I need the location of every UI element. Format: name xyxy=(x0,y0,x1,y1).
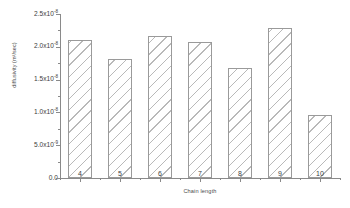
x-axis-tick xyxy=(200,178,201,182)
y-axis-line xyxy=(60,14,61,178)
y-axis-tick-label: 5.0x10-9 xyxy=(12,142,58,149)
y-axis-minor-tick xyxy=(58,96,60,97)
x-axis-minor-tick xyxy=(60,178,61,180)
bar xyxy=(188,42,212,178)
x-axis-tick-label: 5 xyxy=(105,170,135,177)
x-axis-minor-tick xyxy=(340,178,341,180)
y-axis-tick xyxy=(56,112,60,113)
x-axis-minor-tick xyxy=(180,178,181,180)
y-axis-tick-label: 0.0 xyxy=(12,175,58,182)
x-axis-tick-label: 10 xyxy=(305,170,335,177)
y-axis-tick-label: 2.5x10-8 xyxy=(12,11,58,18)
bar xyxy=(228,68,252,178)
x-axis-minor-tick xyxy=(220,178,221,180)
x-axis-minor-tick xyxy=(300,178,301,180)
bar xyxy=(308,115,332,178)
bar xyxy=(148,36,172,178)
y-axis-minor-tick xyxy=(58,30,60,31)
x-axis-tick-label: 7 xyxy=(185,170,215,177)
y-axis-minor-tick xyxy=(58,63,60,64)
y-axis-tick xyxy=(56,47,60,48)
x-axis-tick-label: 8 xyxy=(225,170,255,177)
bar xyxy=(68,40,92,178)
x-axis-tick xyxy=(240,178,241,182)
y-axis-tick-label: 1.5x10-8 xyxy=(12,76,58,83)
x-axis-tick-label: 4 xyxy=(65,170,95,177)
y-axis-tick xyxy=(56,14,60,15)
x-axis-tick xyxy=(280,178,281,182)
bar xyxy=(108,59,132,178)
x-axis-tick-label: 6 xyxy=(145,170,175,177)
y-axis-tick-label: 2.0x10-8 xyxy=(12,43,58,50)
y-axis-tick xyxy=(56,145,60,146)
y-axis-tick-labels: 0.05.0x10-91.0x10-81.5x10-82.0x10-82.5x1… xyxy=(10,0,58,208)
y-axis-minor-tick xyxy=(58,162,60,163)
x-axis-minor-tick xyxy=(140,178,141,180)
plot-area xyxy=(60,14,340,178)
bar-chart: diffusivity (m²/sec) 0.05.0x10-91.0x10-8… xyxy=(0,0,350,208)
y-axis-minor-tick xyxy=(58,129,60,130)
x-axis-minor-tick xyxy=(260,178,261,180)
x-axis-tick xyxy=(120,178,121,182)
bar xyxy=(268,28,292,178)
x-axis-tick xyxy=(320,178,321,182)
y-axis-tick xyxy=(56,80,60,81)
x-axis-minor-tick xyxy=(100,178,101,180)
x-axis-tick-label: 9 xyxy=(265,170,295,177)
x-axis-title: Chain length xyxy=(60,188,340,194)
x-axis-tick xyxy=(160,178,161,182)
x-axis-tick xyxy=(80,178,81,182)
y-axis-tick-label: 1.0x10-8 xyxy=(12,109,58,116)
